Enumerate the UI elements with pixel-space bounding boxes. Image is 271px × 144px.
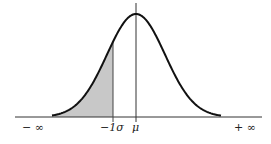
neg-infinity-label: − ∞ [22,121,44,134]
pos-infinity-label: + ∞ [234,121,256,134]
neg-sigma-label: −1σ [100,121,124,134]
normal-distribution-chart: − ∞ −1σ μ + ∞ [0,0,271,144]
shaded-tail-area [52,42,113,117]
mu-label: μ [132,121,139,134]
